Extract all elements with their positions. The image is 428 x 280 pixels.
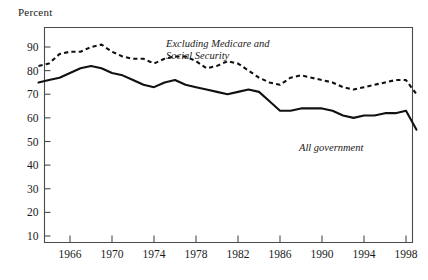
y-axis-ticks: 102030405060708090 xyxy=(27,41,51,242)
x-tick-label: 1974 xyxy=(143,248,166,260)
x-tick-label: 1966 xyxy=(59,248,82,260)
y-tick-label: 40 xyxy=(27,159,39,171)
x-tick-label: 1982 xyxy=(227,248,250,260)
annotation-excluding-medicare-line1: Excluding Medicare and xyxy=(165,38,270,49)
x-tick-label: 1998 xyxy=(395,248,418,260)
y-tick-label: 90 xyxy=(27,41,39,53)
chart-figure: Percent 102030405060708090 1966197019741… xyxy=(0,0,428,280)
series-line-all-government xyxy=(39,66,417,130)
annotation-all-government: All government xyxy=(298,142,365,153)
y-tick-label: 80 xyxy=(27,65,39,77)
y-tick-label: 30 xyxy=(27,183,39,195)
x-tick-label: 1994 xyxy=(353,248,376,260)
x-tick-label: 1978 xyxy=(185,248,208,260)
y-tick-label: 20 xyxy=(27,206,39,218)
y-tick-label: 50 xyxy=(27,136,39,148)
annotation-excluding-medicare-line2: Social Security xyxy=(166,50,230,61)
y-tick-label: 10 xyxy=(27,230,39,242)
x-tick-label: 1970 xyxy=(101,248,124,260)
y-tick-label: 70 xyxy=(27,88,39,100)
x-tick-label: 1990 xyxy=(311,248,334,260)
y-tick-label: 60 xyxy=(27,112,39,124)
x-axis-ticks: 196619701974197819821986199019941998 xyxy=(59,236,418,260)
x-tick-label: 1986 xyxy=(269,248,292,260)
chart-plot-area: 102030405060708090 196619701974197819821… xyxy=(0,0,428,280)
